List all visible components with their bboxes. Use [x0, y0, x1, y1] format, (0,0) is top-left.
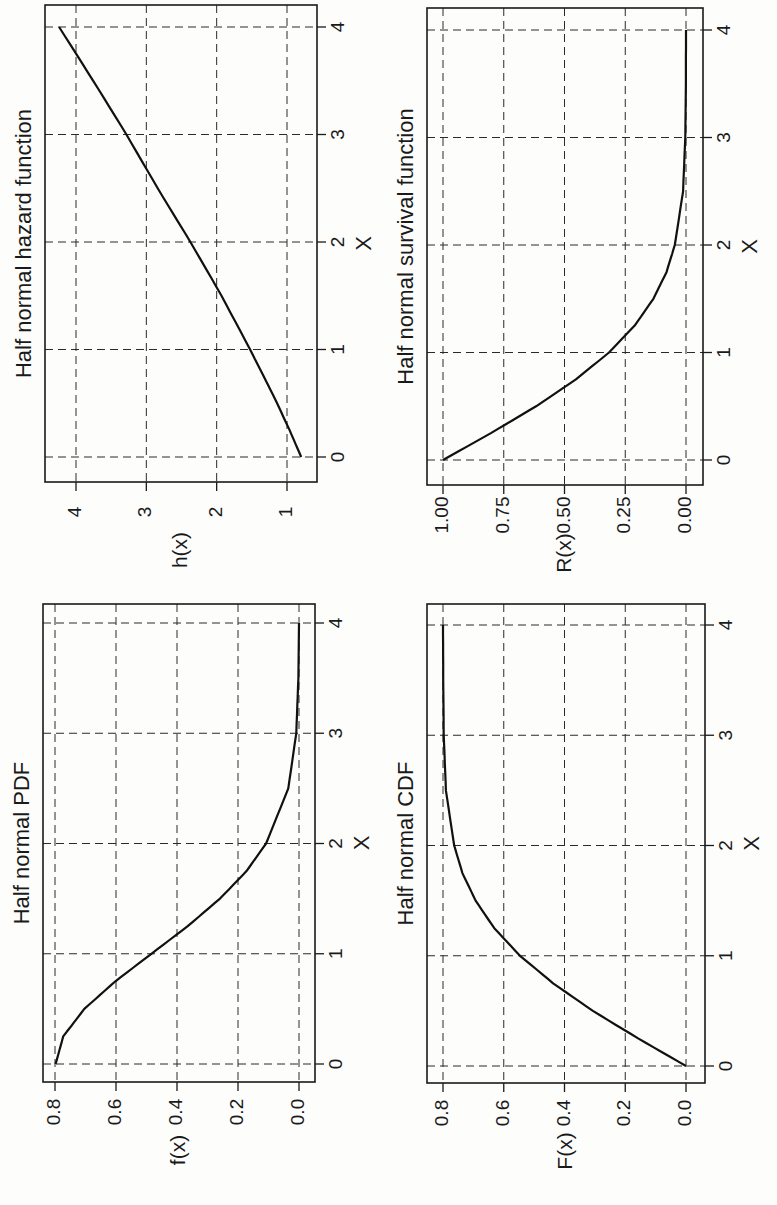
y-tick-label: 0.2 [613, 1100, 634, 1126]
x-tick-label: 3 [325, 728, 346, 739]
chart-title: Half normal hazard function [11, 109, 36, 378]
x-tick-label: 3 [327, 129, 348, 140]
x-tick-label: 4 [713, 24, 734, 35]
cdf-panel: 012340.00.20.40.60.8Half normal CDFXF(x) [393, 604, 764, 1170]
x-tick-label: 4 [327, 21, 348, 32]
y-axis-label: F(x) [553, 1132, 576, 1169]
y-tick-label: 4 [64, 506, 85, 517]
y-tick-label: 2 [205, 507, 226, 518]
y-tick-label: 0.8 [431, 1100, 452, 1126]
x-tick-label: 4 [715, 619, 736, 630]
figure-canvas: 012341234Half normal hazard functionXh(x… [0, 0, 777, 1205]
x-tick-label: 4 [325, 617, 346, 628]
y-tick-label: 0.0 [287, 1099, 308, 1125]
x-axis-label: X [351, 236, 376, 251]
y-tick-label: 3 [134, 507, 155, 518]
y-tick-label: 0.6 [104, 1099, 125, 1125]
x-tick-label: 3 [713, 132, 734, 143]
y-tick-label: 0.75 [492, 497, 513, 534]
survival-function-panel: 012340.000.250.500.751.00Half normal sur… [393, 8, 762, 573]
y-tick-label: 0.4 [553, 1099, 574, 1126]
y-tick-label: 0.8 [43, 1099, 64, 1125]
x-tick-label: 2 [713, 240, 734, 251]
x-tick-label: 2 [715, 840, 736, 851]
x-tick-label: 0 [325, 1059, 346, 1070]
plot-frame [45, 5, 317, 482]
x-tick-label: 1 [715, 950, 736, 961]
y-tick-label: 1.00 [431, 497, 452, 534]
x-axis-label: X [349, 835, 374, 850]
y-tick-label: 0.50 [553, 497, 574, 534]
pdf-panel: 012340.00.20.40.60.8Half normal PDFXf(x) [9, 604, 374, 1165]
x-tick-label: 1 [325, 948, 346, 959]
x-tick-label: 2 [325, 838, 346, 849]
y-tick-label: 0.25 [613, 497, 634, 534]
y-tick-label: 0.4 [165, 1098, 186, 1125]
x-axis-label: X [737, 239, 762, 254]
y-tick-label: 0.2 [226, 1099, 247, 1125]
x-tick-label: 1 [327, 344, 348, 355]
chart-title: Half normal PDF [9, 762, 34, 925]
x-tick-label: 0 [327, 452, 348, 463]
y-tick-label: 1 [275, 507, 296, 518]
rotated-figure-page: 012341234Half normal hazard functionXh(x… [0, 0, 777, 1205]
y-axis-label: h(x) [168, 532, 191, 568]
x-axis-label: X [739, 836, 764, 851]
y-tick-label: 0.00 [674, 497, 695, 534]
y-axis-label: f(x) [166, 1135, 189, 1165]
x-tick-label: 3 [715, 730, 736, 741]
x-tick-label: 0 [715, 1061, 736, 1072]
chart-title: Half normal survival function [393, 108, 418, 384]
chart-title: Half normal CDF [393, 762, 418, 926]
y-tick-label: 0.6 [492, 1100, 513, 1126]
x-tick-label: 0 [713, 455, 734, 466]
x-tick-label: 1 [713, 347, 734, 358]
x-tick-label: 2 [327, 237, 348, 248]
plot-frame [427, 604, 705, 1083]
y-tick-label: 0.0 [674, 1100, 695, 1126]
hazard-function-panel: 012341234Half normal hazard functionXh(x… [11, 5, 376, 568]
y-axis-label: R(x) [552, 533, 575, 573]
